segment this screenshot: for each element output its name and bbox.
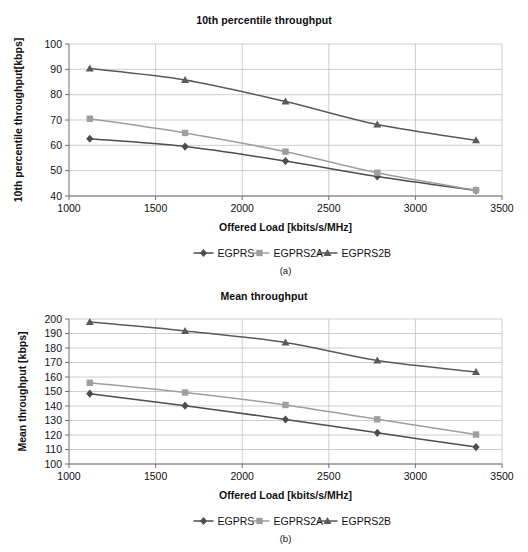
y-tick-label: 80 <box>50 88 62 100</box>
legend-item-egprs2a[interactable]: EGPRS2A <box>250 247 324 259</box>
legend-group: EGPRSEGPRS2AEGPRS2B <box>194 247 392 259</box>
series-group <box>86 318 480 451</box>
x-tick-label: 2500 <box>317 470 341 482</box>
marker-diamond <box>374 429 381 437</box>
x-tick-label: 3000 <box>404 202 428 214</box>
legend-item-egprs[interactable]: EGPRS <box>194 515 255 527</box>
marker-square <box>182 389 188 395</box>
legend-item-egprs[interactable]: EGPRS <box>194 247 255 259</box>
y-tick-label: 110 <box>45 443 62 455</box>
chart-panel-b: Mean throughput 100110120130140150160170… <box>0 280 528 552</box>
y-tick-label: 60 <box>50 139 62 151</box>
marker-square <box>282 402 288 408</box>
marker-square <box>87 380 93 386</box>
y-tick-label: 130 <box>44 414 62 426</box>
marker-square <box>473 431 479 437</box>
chart-a-title: 10th percentile throughput <box>0 14 528 26</box>
x-axis-title: Offered Load [kbits/s/MHz] <box>219 489 352 501</box>
y-tick-label: 180 <box>44 342 62 354</box>
y-tick-label: 100 <box>44 458 62 470</box>
x-tick-label: 2500 <box>317 202 341 214</box>
marker-square <box>256 518 262 524</box>
x-tick-label: 2000 <box>231 470 255 482</box>
series-egprs2a <box>87 380 480 438</box>
panel-caption: (a) <box>280 265 292 276</box>
marker-diamond <box>282 415 289 423</box>
legend-item-egprs2b[interactable]: EGPRS2B <box>318 247 392 259</box>
y-axis-title: Mean throughput [kbps] <box>16 331 28 451</box>
y-tick-label: 70 <box>50 114 62 126</box>
chart-panel-a: 10th percentile throughput 4050607080901… <box>0 0 528 280</box>
series-egprs2a <box>87 116 480 194</box>
series-line <box>90 322 476 372</box>
series-line <box>90 139 476 191</box>
marker-diamond <box>200 517 207 525</box>
y-axis-title: 10th percentile throughput[kbps] <box>12 38 24 203</box>
y-tick-label: 50 <box>50 164 62 176</box>
marker-square <box>374 416 380 422</box>
marker-diamond <box>181 402 188 410</box>
x-tick-label: 1000 <box>57 202 81 214</box>
x-tick-label: 1000 <box>57 470 81 482</box>
y-tick-label: 140 <box>44 400 62 412</box>
x-tick-label: 1500 <box>144 202 168 214</box>
legend-item-egprs2a[interactable]: EGPRS2A <box>250 515 324 527</box>
x-tick-label: 2000 <box>231 202 255 214</box>
y-tick-label: 190 <box>44 327 62 339</box>
axes-group: 405060708090100100015002000250030003500 <box>44 38 513 214</box>
legend-label: EGPRS <box>218 515 255 527</box>
series-egprs2b <box>86 65 480 144</box>
marker-diamond <box>181 143 188 151</box>
marker-diamond <box>200 249 207 257</box>
y-tick-label: 160 <box>44 371 62 383</box>
marker-square <box>256 250 262 256</box>
legend-label: EGPRS2B <box>342 247 392 259</box>
y-tick-label: 120 <box>44 429 62 441</box>
gridlines-group <box>69 44 502 196</box>
series-line <box>90 383 476 435</box>
marker-square <box>473 187 479 193</box>
x-axis-title: Offered Load [kbits/s/MHz] <box>219 221 352 233</box>
marker-square <box>182 130 188 136</box>
legend-label: EGPRS2B <box>342 515 392 527</box>
chart-a-plot: 405060708090100100015002000250030003500O… <box>0 26 528 276</box>
legend-label: EGPRS <box>218 247 255 259</box>
legend-item-egprs2b[interactable]: EGPRS2B <box>318 515 392 527</box>
marker-diamond <box>282 157 289 165</box>
chart-b-title: Mean throughput <box>0 290 528 302</box>
marker-diamond <box>472 443 479 451</box>
marker-diamond <box>86 390 93 398</box>
series-group <box>86 65 480 195</box>
x-tick-label: 3000 <box>404 470 428 482</box>
chart-b-plot: 1001101201301401501601701801902001000150… <box>0 302 528 550</box>
y-tick-label: 90 <box>50 63 62 75</box>
series-egprs <box>86 135 479 195</box>
y-tick-label: 170 <box>44 356 62 368</box>
series-egprs2b <box>86 318 480 375</box>
x-tick-label: 1500 <box>144 470 168 482</box>
y-tick-label: 100 <box>44 38 62 50</box>
legend-label: EGPRS2A <box>274 247 324 259</box>
marker-triangle <box>86 65 94 72</box>
x-tick-label: 3500 <box>490 470 514 482</box>
y-tick-label: 40 <box>50 190 62 202</box>
marker-square <box>87 116 93 122</box>
figure-root: 10th percentile throughput 4050607080901… <box>0 0 528 552</box>
marker-square <box>374 169 380 175</box>
marker-square <box>282 148 288 154</box>
y-tick-label: 150 <box>44 385 62 397</box>
panel-caption: (b) <box>280 533 292 544</box>
legend-label: EGPRS2A <box>274 515 324 527</box>
marker-diamond <box>86 135 93 143</box>
x-tick-label: 3500 <box>490 202 514 214</box>
y-tick-label: 200 <box>44 313 62 325</box>
legend-group: EGPRSEGPRS2AEGPRS2B <box>194 515 392 527</box>
